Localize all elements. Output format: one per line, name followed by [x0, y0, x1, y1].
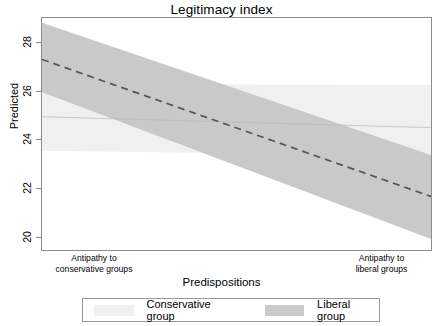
- legend-swatch-liberal: [265, 305, 305, 316]
- legend-swatch-conservative: [94, 305, 134, 316]
- x-axis-caption-left: Antipathy to conservative groups: [34, 253, 154, 274]
- y-axis-label: Predicted: [8, 46, 20, 166]
- y-tick-label-28: 28: [21, 29, 33, 55]
- chart-root: Legitimacy index Predicted 28 26 24 22 2…: [0, 0, 443, 326]
- plot-area: [41, 17, 432, 251]
- y-tick-label-26: 26: [21, 78, 33, 104]
- x-axis-caption-right: Antipathy to liberal groups: [330, 253, 433, 274]
- y-tick-label-20: 20: [21, 224, 33, 250]
- legend-label-liberal: Liberal group: [317, 298, 379, 322]
- legend-label-conservative: Conservative group: [147, 298, 239, 322]
- plot-svg: [42, 18, 432, 251]
- y-tick-label-24: 24: [21, 126, 33, 152]
- y-tick-label-22: 22: [21, 175, 33, 201]
- chart-title: Legitimacy index: [0, 2, 443, 17]
- x-axis-label: Predispositions: [0, 276, 443, 288]
- chart-legend: Conservative group Liberal group: [82, 298, 380, 322]
- legend-item-conservative: Conservative group: [94, 298, 239, 322]
- legend-item-liberal: Liberal group: [265, 298, 379, 322]
